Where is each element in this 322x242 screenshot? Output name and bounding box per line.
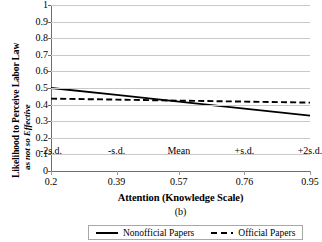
x-axis-sd-label: +s.d. [235, 145, 255, 156]
y-tick-label: 0.5 [24, 83, 48, 93]
x-tick-label: 0.95 [301, 176, 319, 187]
gridline [51, 105, 310, 106]
gridline [51, 22, 310, 23]
legend-label: Official Papers [238, 228, 295, 238]
x-tick-mark [51, 171, 52, 175]
legend-item: Official Papers [211, 228, 295, 238]
y-tick-mark [48, 88, 51, 89]
y-tick-label: 1 [24, 0, 48, 10]
y-tick-label: 0.7 [24, 50, 48, 60]
x-tick-label: 0.39 [108, 176, 126, 187]
y-tick-mark [48, 105, 51, 106]
y-tick-mark [48, 55, 51, 56]
x-axis-line [51, 171, 310, 172]
x-tick-mark [179, 171, 180, 175]
legend-item: Nonofficial Papers [96, 228, 194, 238]
x-axis-sd-label: -s.d. [108, 145, 125, 156]
y-tick-label: 0.8 [24, 33, 48, 43]
y-tick-label: 0.2 [24, 133, 48, 143]
y-tick-mark [48, 38, 51, 39]
x-axis-sd-label: -2s.d. [40, 145, 62, 156]
gridline [51, 71, 310, 72]
x-tick-label: 0.57 [170, 176, 188, 187]
x-tick-label: 0.2 [45, 176, 58, 187]
gridline [51, 121, 310, 122]
plot-area: -2s.d.-s.d.Mean+s.d.+2s.d. [51, 5, 310, 171]
y-tick-label: 0 [24, 166, 48, 176]
y-tick-mark [48, 71, 51, 72]
y-tick-mark [48, 5, 51, 6]
x-tick-mark [310, 171, 311, 175]
gridline [51, 138, 310, 139]
x-axis-tick-labels: 0.20.390.570.760.95 [51, 176, 310, 190]
y-tick-label: 0.3 [24, 116, 48, 126]
gridline [51, 38, 310, 39]
x-axis-sd-label: +2s.d. [298, 145, 322, 156]
series-line-nonofficial-papers [51, 88, 310, 116]
x-axis-title: Attention (Knowledge Scale) [51, 192, 310, 203]
figure-caption: (b) [51, 206, 310, 217]
chart-legend: Nonofficial PapersOfficial Papers [88, 225, 303, 240]
y-tick-label: 0.6 [24, 66, 48, 76]
legend-label: Nonofficial Papers [123, 228, 194, 238]
y-tick-label: 0.9 [24, 17, 48, 27]
gridline [51, 88, 310, 89]
y-axis-title-line1: Likelihood to Perceive Labor Law [11, 43, 21, 178]
gridline [51, 5, 310, 6]
x-tick-label: 0.76 [236, 176, 254, 187]
y-tick-label: 0.4 [24, 100, 48, 110]
x-tick-mark [117, 171, 118, 175]
y-tick-mark [48, 22, 51, 23]
y-tick-mark [48, 138, 51, 139]
gridline [51, 55, 310, 56]
x-axis-sd-label: Mean [167, 145, 190, 156]
x-tick-mark [244, 171, 245, 175]
solid-line-icon [96, 229, 118, 237]
dashed-line-icon [211, 229, 233, 237]
y-tick-mark [48, 121, 51, 122]
